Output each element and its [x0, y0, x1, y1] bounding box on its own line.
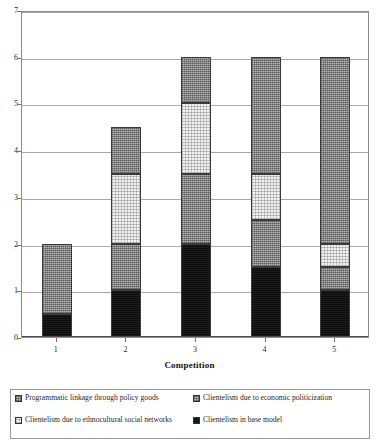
x-axis-tick-label: 2 [110, 345, 140, 354]
x-axis-tick-label: 5 [319, 345, 349, 354]
y-axis-tick-label: 7 [2, 7, 18, 15]
x-axis-tick-label: 4 [250, 345, 280, 354]
legend-column-left: Programmatic linkage through policy good… [15, 393, 193, 437]
x-axis-tick-mark [56, 338, 57, 342]
legend-swatch-icon [193, 395, 200, 402]
legend-item-label: Programmatic linkage through policy good… [25, 393, 159, 403]
y-axis-tick-mark [17, 338, 21, 339]
bar-segment [111, 127, 141, 174]
x-axis-baseline [22, 336, 368, 337]
x-axis-tick-mark [195, 338, 196, 342]
bar-segment [111, 244, 141, 291]
legend-item-label: Clientelism due to ethnocultural social … [25, 415, 172, 425]
bar-segment [42, 314, 72, 337]
x-axis-tick-label: 1 [41, 345, 71, 354]
legend-item: Programmatic linkage through policy good… [15, 393, 193, 412]
chart-legend: Programmatic linkage through policy good… [10, 389, 370, 439]
bar-segment [251, 57, 281, 174]
y-axis-tick-label: 4 [2, 147, 18, 155]
bar-segment [320, 244, 350, 267]
bar-segment [320, 290, 350, 337]
x-axis-tick-mark [125, 338, 126, 342]
legend-swatch-icon [15, 417, 22, 424]
legend-column-right: Clientelism due to economic politicizati… [193, 393, 369, 437]
gridline [22, 12, 368, 13]
legend-item: Clientelism due to ethnocultural social … [15, 415, 193, 434]
bar-segment [251, 267, 281, 337]
x-axis-title: Competition [0, 360, 379, 370]
bar-segment [111, 290, 141, 337]
y-axis-tick-label: 3 [2, 194, 18, 202]
legend-item-label: Clientelism due to economic politicizati… [203, 393, 332, 403]
legend-swatch-icon [193, 417, 200, 424]
plot-area [21, 11, 369, 338]
bar-segment [42, 244, 72, 314]
y-axis-tick-label: 6 [2, 54, 18, 62]
x-axis-tick-label: 3 [180, 345, 210, 354]
bar-segment [181, 174, 211, 244]
y-axis-tick-label: 0 [2, 334, 18, 342]
bar-segment [320, 57, 350, 244]
bar-segment [181, 244, 211, 337]
legend-item: Clientelism in base model [193, 415, 369, 434]
bar-segment [320, 267, 350, 290]
bar-segment [111, 174, 141, 244]
legend-item: Clientelism due to economic politicizati… [193, 393, 369, 412]
bar-segment [181, 57, 211, 104]
bar-segment [251, 174, 281, 221]
x-axis-tick-mark [334, 338, 335, 342]
legend-swatch-icon [15, 395, 22, 402]
y-axis-tick-label: 1 [2, 287, 18, 295]
legend-item-label: Clientelism in base model [203, 415, 282, 425]
y-axis-tick-label: 5 [2, 100, 18, 108]
y-axis-tick-label: 2 [2, 241, 18, 249]
bar-segment [181, 103, 211, 173]
bar-segment [251, 220, 281, 267]
plot-inner [22, 12, 368, 337]
chart-figure: 01234567 12345 Competition Programmatic … [0, 0, 379, 447]
x-axis-tick-mark [265, 338, 266, 342]
